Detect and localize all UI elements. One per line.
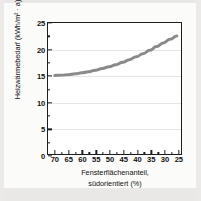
x-tick-label: 35 (147, 155, 155, 164)
y-tick-label: 5 (41, 125, 45, 134)
figure-right-margin (196, 0, 201, 201)
plot-area: 0510152025 70656055504540353025 (47, 22, 182, 155)
x-tick-label: 65 (64, 155, 72, 164)
x-tick-label: 50 (106, 155, 114, 164)
x-tick-label: 45 (120, 155, 128, 164)
x-tick-label: 30 (161, 155, 169, 164)
y-axis-title: Heizwärmebedarf (kWh/m² · a) (13, 0, 22, 134)
figure-top-margin (0, 0, 201, 3)
figure-bottom-margin (0, 188, 201, 201)
y-tick-label: 10 (37, 98, 45, 107)
x-tick-label: 60 (78, 155, 86, 164)
x-axis-title-line2: südorientiert (%) (40, 179, 190, 190)
x-axis-title-line1: Fensterflächenanteil, (40, 168, 190, 179)
y-tick-label: 25 (37, 19, 45, 28)
x-tick-label: 25 (175, 155, 183, 164)
x-tick-label: 70 (51, 155, 59, 164)
y-tick-label: 20 (37, 45, 45, 54)
x-axis-title: Fensterflächenanteil, südorientiert (%) (40, 168, 190, 189)
x-tick-label: 40 (133, 155, 141, 164)
y-tick-label: 15 (37, 72, 45, 81)
figure-left-margin (0, 0, 4, 201)
data-curve (48, 23, 181, 154)
chart-figure: Heizwärmebedarf (kWh/m² · a) 0510152025 … (0, 0, 201, 201)
y-tick-label: 0 (41, 152, 45, 161)
x-tick-label: 55 (92, 155, 100, 164)
